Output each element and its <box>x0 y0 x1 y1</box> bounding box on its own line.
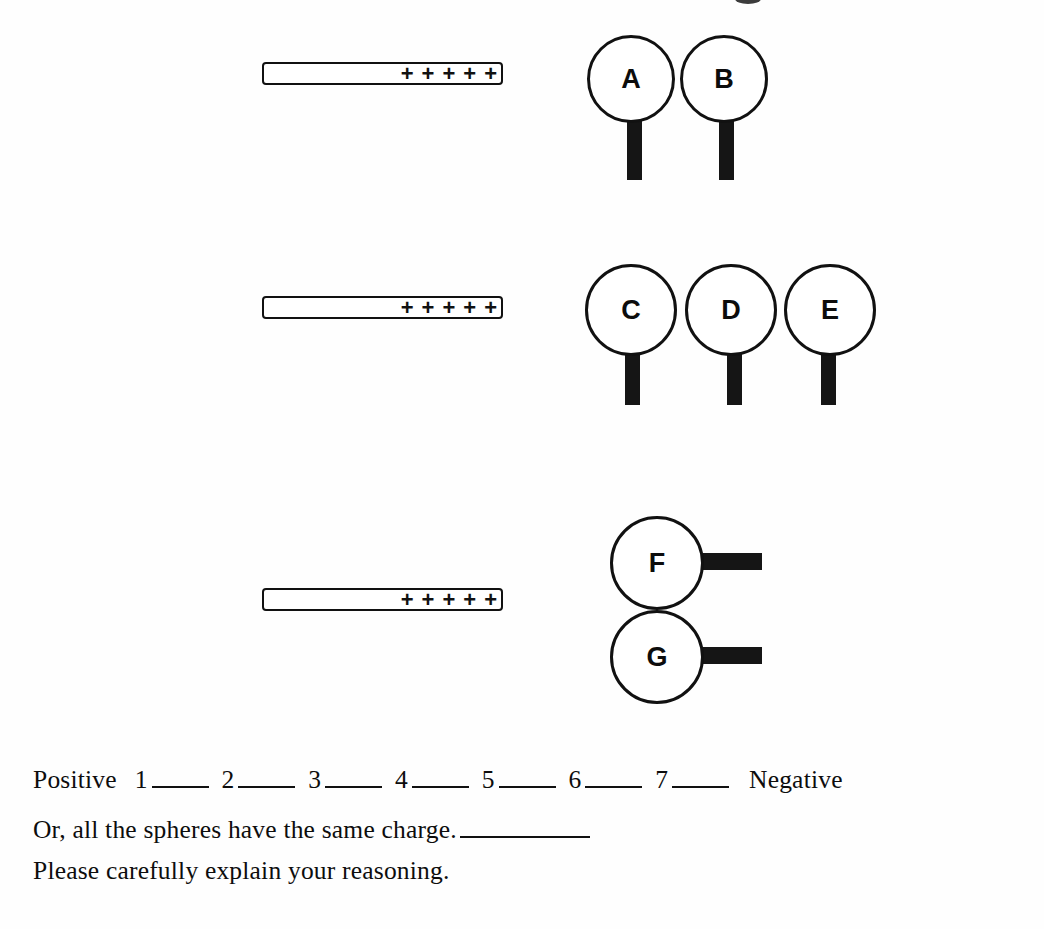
rating-option-7-blank[interactable] <box>672 762 729 788</box>
rating-option-3-number: 3 <box>307 765 322 794</box>
rating-option-6-blank[interactable] <box>585 762 642 788</box>
rod-2-charge-2: + <box>422 296 435 318</box>
rating-option-4-number: 4 <box>394 765 409 794</box>
rod-2-charge-1: + <box>401 296 414 318</box>
sphere-g-label: G <box>646 644 667 671</box>
instruction-line: Please carefully explain your reasoning. <box>33 858 450 884</box>
sphere-c: C <box>585 264 677 356</box>
rod-3-charge-5: + <box>484 588 497 610</box>
charged-rod-3: + + + + + <box>262 588 503 611</box>
rod-3-charge-1: + <box>401 588 414 610</box>
rod-2-charge-marks: + + + + + <box>401 296 497 318</box>
sphere-g: G <box>610 610 704 704</box>
rating-option-6-number: 6 <box>568 765 583 794</box>
sphere-f: F <box>610 516 704 610</box>
rating-option-7-number: 7 <box>654 765 669 794</box>
rating-option-1-number: 1 <box>134 765 149 794</box>
stem-sphere-g <box>697 647 762 664</box>
instruction-text: Please carefully explain your reasoning. <box>33 856 450 885</box>
charged-rod-1: + + + + + <box>262 62 503 85</box>
rod-1-charge-2: + <box>422 62 435 84</box>
sphere-b: B <box>680 35 768 123</box>
sphere-d-label: D <box>721 297 741 324</box>
rod-2-charge-4: + <box>463 296 476 318</box>
same-charge-blank[interactable] <box>460 812 590 838</box>
rod-3-charge-marks: + + + + + <box>401 588 497 610</box>
rod-3-charge-3: + <box>442 588 455 610</box>
same-charge-text: Or, all the spheres have the same charge… <box>33 815 457 844</box>
sphere-c-label: C <box>621 297 641 324</box>
rod-3-charge-4: + <box>463 588 476 610</box>
rating-option-4-blank[interactable] <box>412 762 469 788</box>
stem-sphere-f <box>697 553 762 570</box>
rating-option-5-blank[interactable] <box>499 762 556 788</box>
sphere-a-label: A <box>621 66 641 93</box>
rating-scale-line: Positive1234567Negative <box>33 762 843 793</box>
worksheet-page: + + + + + A B + + + + + C D E + <box>0 0 1044 929</box>
rod-2-charge-3: + <box>442 296 455 318</box>
rod-1-charge-4: + <box>463 62 476 84</box>
rating-option-1-blank[interactable] <box>152 762 209 788</box>
rod-3-charge-2: + <box>422 588 435 610</box>
charged-rod-2: + + + + + <box>262 296 503 319</box>
rod-1-charge-3: + <box>442 62 455 84</box>
rating-scale-right-label: Negative <box>749 765 843 794</box>
rating-option-3-blank[interactable] <box>325 762 382 788</box>
scan-artifact <box>735 0 761 4</box>
sphere-a: A <box>587 35 675 123</box>
rod-2-charge-5: + <box>484 296 497 318</box>
sphere-e: E <box>784 264 876 356</box>
rating-scale-left-label: Positive <box>33 765 117 794</box>
rod-1-charge-marks: + + + + + <box>401 62 497 84</box>
rating-option-5-number: 5 <box>481 765 496 794</box>
rating-option-2-blank[interactable] <box>238 762 295 788</box>
same-charge-line: Or, all the spheres have the same charge… <box>33 812 593 843</box>
rating-option-2-number: 2 <box>221 765 236 794</box>
sphere-f-label: F <box>649 550 666 577</box>
rod-1-charge-5: + <box>484 62 497 84</box>
sphere-b-label: B <box>714 66 734 93</box>
rod-1-charge-1: + <box>401 62 414 84</box>
sphere-e-label: E <box>821 297 839 324</box>
sphere-d: D <box>685 264 777 356</box>
